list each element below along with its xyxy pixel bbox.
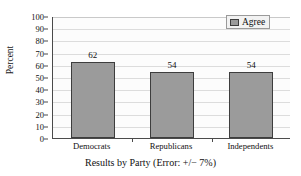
y-axis-tick-mark <box>44 139 48 140</box>
bar-value-label: 54 <box>229 61 273 70</box>
chart-legend: Agree <box>226 15 270 29</box>
bar-chart-figure: Percent 1009080706050403020100 625454 De… <box>0 0 301 176</box>
bar-value-label: 62 <box>71 51 115 60</box>
y-axis-tick-mark <box>44 102 48 103</box>
bar-group[interactable]: 62 <box>71 17 115 138</box>
y-axis-tick-label: 60 <box>36 62 45 71</box>
chart-title <box>0 0 301 3</box>
bar-group[interactable]: 54 <box>229 17 273 138</box>
x-axis-title: Results by Party (Error: +/− 7%) <box>0 157 301 168</box>
y-axis-tick-mark <box>44 41 48 42</box>
y-axis-tick-label: 90 <box>36 25 45 34</box>
x-axis-tick-labels: DemocratsRepublicansIndependents <box>52 141 290 154</box>
y-axis-tick-label: 70 <box>36 49 45 58</box>
bar[interactable] <box>150 72 194 138</box>
x-axis-tick-label: Democrats <box>52 141 131 152</box>
bar-group[interactable]: 54 <box>150 17 194 138</box>
x-axis-tick-label: Independents <box>211 141 290 152</box>
y-axis-tick-mark <box>44 17 48 18</box>
y-axis-tick-label: 50 <box>36 74 45 83</box>
y-axis-tick-label: 100 <box>31 13 44 22</box>
bar-series-agree: 625454 <box>53 17 290 138</box>
bar[interactable] <box>71 62 115 138</box>
bar[interactable] <box>229 72 273 138</box>
y-axis-tick-label: 40 <box>36 86 45 95</box>
y-axis-tick-mark <box>44 53 48 54</box>
y-axis-tick-label: 20 <box>36 110 45 119</box>
x-axis-tick-label: Republicans <box>131 141 210 152</box>
y-axis-tick-mark <box>44 29 48 30</box>
y-axis-tick-label: 80 <box>36 37 45 46</box>
y-axis-tick-labels: 1009080706050403020100 <box>22 17 48 139</box>
y-axis-tick-label: 10 <box>36 123 45 132</box>
bar-value-label: 54 <box>150 61 194 70</box>
y-axis-tick-mark <box>44 114 48 115</box>
legend-label-agree: Agree <box>242 17 265 27</box>
y-axis-tick-mark <box>44 78 48 79</box>
legend-swatch-agree <box>230 19 239 26</box>
plot-area: 625454 <box>52 17 290 139</box>
y-axis-title: Percent <box>5 30 15 90</box>
y-axis-tick-label: 30 <box>36 98 45 107</box>
y-axis-tick-mark <box>44 126 48 127</box>
y-axis-tick-mark <box>44 90 48 91</box>
y-axis-tick-mark <box>44 65 48 66</box>
